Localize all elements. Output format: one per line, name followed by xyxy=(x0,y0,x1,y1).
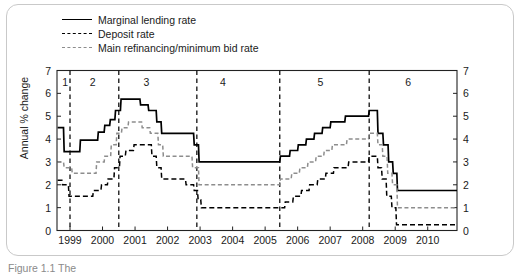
y-tick-label-right: 2 xyxy=(463,180,477,190)
y-tick-label-left: 2 xyxy=(37,180,51,190)
y-tick-label-right: 3 xyxy=(463,157,477,167)
period-number: 5 xyxy=(300,77,340,87)
y-tick-label-left: 0 xyxy=(37,226,51,236)
period-number: 2 xyxy=(73,77,113,87)
y-tick-label-left: 1 xyxy=(37,203,51,213)
plot-frame xyxy=(57,71,457,231)
x-tick-label: 2010 xyxy=(408,235,448,245)
figure-container: Marginal lending rate Deposit rate Main … xyxy=(0,0,526,275)
y-tick-label-right: 1 xyxy=(463,203,477,213)
series-line xyxy=(58,122,457,208)
y-tick-label-left: 7 xyxy=(37,66,51,76)
figure-caption: Figure 1.1 The xyxy=(8,262,76,274)
y-tick-label-left: 5 xyxy=(37,111,51,121)
y-tick-label-right: 0 xyxy=(463,226,477,236)
y-tick-label-left: 4 xyxy=(37,134,51,144)
series-line xyxy=(58,99,457,190)
period-number: 4 xyxy=(203,77,243,87)
period-number: 3 xyxy=(126,77,166,87)
y-tick-label-left: 3 xyxy=(37,157,51,167)
y-tick-label-left: 6 xyxy=(37,88,51,98)
y-tick-label-right: 4 xyxy=(463,134,477,144)
period-number: 6 xyxy=(388,77,428,87)
y-tick-label-right: 7 xyxy=(463,66,477,76)
y-tick-label-right: 6 xyxy=(463,88,477,98)
y-tick-label-right: 5 xyxy=(463,111,477,121)
